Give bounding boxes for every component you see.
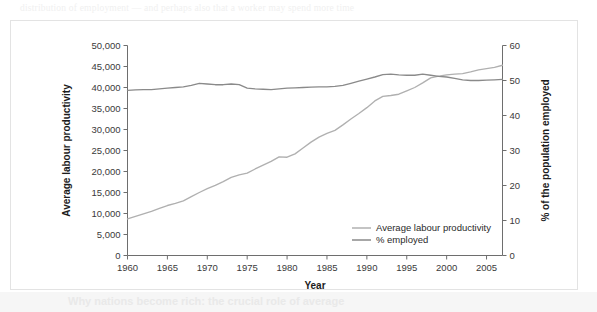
left-axis-tick-label: 5,000: [97, 229, 121, 240]
left-axis-tick-label: 25,000: [91, 145, 120, 156]
left-axis-tick-label: 45,000: [91, 61, 120, 72]
left-axis-tick-label: 30,000: [91, 124, 120, 135]
x-axis-tick-label: 1995: [396, 262, 417, 273]
left-axis-tick-label: 10,000: [91, 208, 120, 219]
x-axis-tick-label: 1980: [277, 262, 298, 273]
legend-label: Average labour productivity: [376, 222, 491, 233]
right-axis-tick-label: 20: [510, 180, 521, 191]
series-line-employed: [128, 74, 503, 90]
right-axis-tick-label: 60: [510, 40, 521, 51]
right-axis-tick-label: 0: [510, 250, 515, 261]
x-axis-tick-label: 1990: [356, 262, 377, 273]
chart-container: 05,00010,00015,00020,00025,00030,00035,0…: [0, 0, 597, 312]
x-axis-tick-label: 2005: [476, 262, 497, 273]
left-axis-tick-label: 35,000: [91, 103, 120, 114]
right-axis-tick-label: 30: [510, 145, 521, 156]
line-chart: 05,00010,00015,00020,00025,00030,00035,0…: [0, 0, 597, 312]
series-line-average-labour-productivity: [128, 65, 503, 219]
x-axis-tick-label: 1965: [157, 262, 178, 273]
right-axis-tick-label: 40: [510, 110, 521, 121]
right-axis-tick-label: 10: [510, 215, 521, 226]
x-axis-tick-label: 1975: [237, 262, 258, 273]
left-axis-tick-label: 50,000: [91, 40, 120, 51]
right-axis-tick-label: 50: [510, 75, 521, 86]
legend-label: % employed: [376, 234, 428, 245]
x-axis-tick-label: 2000: [436, 262, 457, 273]
left-axis-tick-label: 40,000: [91, 82, 120, 93]
left-axis-tick-label: 0: [115, 250, 120, 261]
left-axis-title: Average labour productivity: [61, 84, 72, 217]
right-axis-title: % of the population employed: [540, 79, 551, 221]
x-axis-tick-label: 1970: [197, 262, 218, 273]
left-axis-tick-label: 15,000: [91, 187, 120, 198]
left-axis-tick-label: 20,000: [91, 166, 120, 177]
x-axis-tick-label: 1960: [117, 262, 138, 273]
x-axis-tick-label: 1985: [316, 262, 337, 273]
x-axis-title: Year: [304, 280, 325, 291]
